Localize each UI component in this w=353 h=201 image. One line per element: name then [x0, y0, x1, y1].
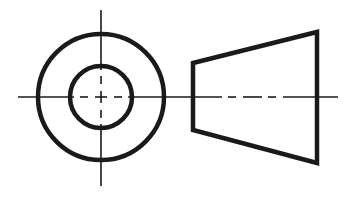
- technical-drawing: [0, 0, 353, 201]
- end-view: [18, 10, 180, 186]
- side-view: [180, 32, 338, 163]
